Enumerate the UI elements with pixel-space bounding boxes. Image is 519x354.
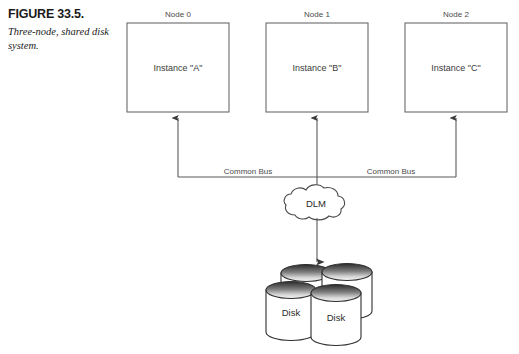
disk-top-back-right: [322, 264, 372, 281]
diagram-canvas: Node 0 Instance "A" Node 1 Instance "B" …: [0, 0, 519, 354]
disk-label-front-left: Disk: [282, 307, 301, 318]
instance-label-0: Instance "A": [154, 63, 203, 73]
disk-cylinder-front-left[interactable]: Disk: [266, 282, 316, 341]
dlm-label: DLM: [306, 198, 326, 209]
node-group-0: Node 0 Instance "A": [127, 10, 229, 177]
disk-array: Disk Disk: [266, 264, 372, 346]
figure-page: FIGURE 33.5. Three-node, shared disk sys…: [0, 0, 519, 354]
dlm-cloud-group: DLM: [284, 185, 344, 262]
node-group-1: Node 1 Instance "B": [266, 10, 368, 196]
node-group-2: Node 2 Instance "C": [405, 10, 507, 177]
disk-top-front-left: [266, 282, 316, 299]
node-label-0: Node 0: [165, 10, 191, 19]
node-label-2: Node 2: [443, 10, 469, 19]
disk-top-front-right: [311, 285, 361, 302]
instance-label-1: Instance "B": [293, 63, 342, 73]
common-bus-label-left: Common Bus: [224, 167, 272, 176]
instance-label-2: Instance "C": [431, 63, 480, 73]
disk-label-front-right: Disk: [327, 312, 346, 323]
common-bus-label-right: Common Bus: [367, 167, 415, 176]
node-label-1: Node 1: [304, 10, 330, 19]
disk-cylinder-front-right[interactable]: Disk: [311, 285, 361, 346]
